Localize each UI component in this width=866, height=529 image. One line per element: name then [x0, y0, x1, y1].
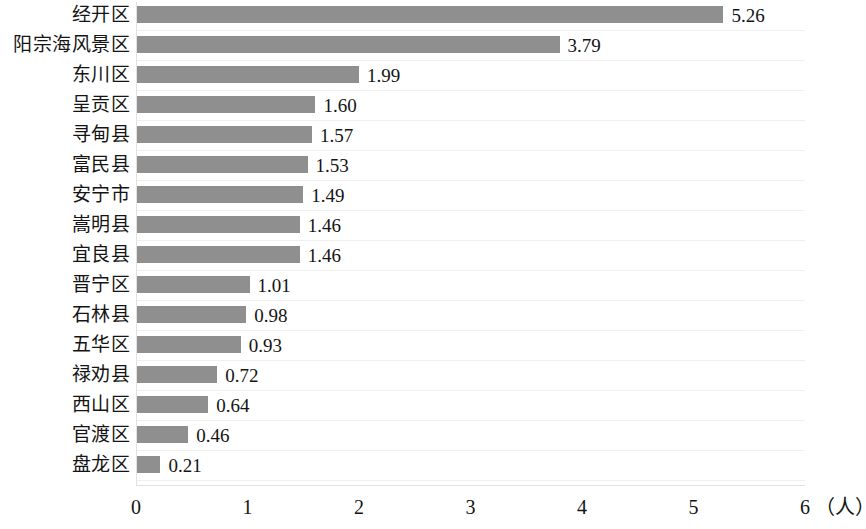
bar: [137, 366, 217, 383]
category-label: 石林县: [0, 300, 130, 330]
bar-value-label: 1.49: [311, 180, 344, 210]
bar: [137, 96, 315, 113]
bar: [137, 276, 250, 293]
bar-value-label: 0.93: [249, 330, 282, 360]
x-axis-tick-label: 1: [243, 493, 253, 521]
category-label: 富民县: [0, 150, 130, 180]
bar-value-label: 1.46: [308, 240, 341, 270]
bar-row: 寻甸县1.57: [0, 120, 846, 150]
x-axis-line: [136, 485, 805, 486]
bar-row: 阳宗海风景区3.79: [0, 30, 846, 60]
bar-track: 0.98: [137, 300, 846, 330]
bar-value-label: 1.01: [258, 270, 291, 300]
bar-row: 石林县0.98: [0, 300, 846, 330]
bar-track: 1.53: [137, 150, 846, 180]
category-label: 安宁市: [0, 180, 130, 210]
bar-row: 盘龙区0.21: [0, 450, 846, 480]
bar-track: 1.49: [137, 180, 846, 210]
bar-value-label: 0.46: [196, 420, 229, 450]
bar-row: 东川区1.99: [0, 60, 846, 90]
category-label: 东川区: [0, 60, 130, 90]
x-axis: 0123456（人）: [0, 487, 846, 529]
category-label: 五华区: [0, 330, 130, 360]
bar-row: 五华区0.93: [0, 330, 846, 360]
category-label: 寻甸县: [0, 120, 130, 150]
category-label: 禄劝县: [0, 360, 130, 390]
bar-track: 3.79: [137, 30, 846, 60]
x-axis-tick-label: 3: [466, 493, 476, 521]
bar-value-label: 0.64: [216, 390, 249, 420]
category-label: 西山区: [0, 390, 130, 420]
bar-value-label: 1.99: [367, 60, 400, 90]
bar-row: 富民县1.53: [0, 150, 846, 180]
bar-row: 晋宁区1.01: [0, 270, 846, 300]
bar: [137, 66, 359, 83]
x-axis-tick-label: 6: [800, 493, 810, 521]
x-axis-unit-label: （人）: [815, 493, 866, 521]
bar-rows: 经开区5.26阳宗海风景区3.79东川区1.99呈贡区1.60寻甸县1.57富民…: [0, 0, 846, 480]
plot-area: 经开区5.26阳宗海风景区3.79东川区1.99呈贡区1.60寻甸县1.57富民…: [0, 0, 846, 487]
bar-track: 0.46: [137, 420, 846, 450]
bar-track: 0.93: [137, 330, 846, 360]
bar-value-label: 0.98: [254, 300, 287, 330]
bar-value-label: 3.79: [568, 30, 601, 60]
bar-track: 0.72: [137, 360, 846, 390]
x-axis-tick-label: 5: [689, 493, 699, 521]
category-label: 盘龙区: [0, 450, 130, 480]
bar: [137, 456, 160, 473]
bar: [137, 186, 303, 203]
category-label: 官渡区: [0, 420, 130, 450]
bar-track: 0.64: [137, 390, 846, 420]
bar: [137, 306, 246, 323]
x-axis-tick-label: 4: [577, 493, 587, 521]
bar: [137, 216, 300, 233]
bar-value-label: 1.53: [316, 150, 349, 180]
bar: [137, 396, 208, 413]
category-label: 晋宁区: [0, 270, 130, 300]
bar-track: 1.57: [137, 120, 846, 150]
bar-row: 宜良县1.46: [0, 240, 846, 270]
gridline: [136, 480, 805, 481]
category-label: 经开区: [0, 0, 130, 30]
bar: [137, 246, 300, 263]
bar: [137, 426, 188, 443]
bar-value-label: 1.60: [323, 90, 356, 120]
bar-row: 禄劝县0.72: [0, 360, 846, 390]
bar: [137, 6, 723, 23]
bar: [137, 36, 560, 53]
bar-row: 安宁市1.49: [0, 180, 846, 210]
bar-track: 1.46: [137, 210, 846, 240]
bar-row: 官渡区0.46: [0, 420, 846, 450]
bar-value-label: 5.26: [731, 0, 764, 30]
category-label: 阳宗海风景区: [0, 30, 130, 60]
bar-track: 1.01: [137, 270, 846, 300]
bar-track: 1.60: [137, 90, 846, 120]
bar-value-label: 1.57: [320, 120, 353, 150]
bar-row: 呈贡区1.60: [0, 90, 846, 120]
bar-track: 5.26: [137, 0, 846, 30]
bar-value-label: 1.46: [308, 210, 341, 240]
x-axis-tick-label: 0: [131, 493, 141, 521]
bar-track: 0.21: [137, 450, 846, 480]
category-label: 宜良县: [0, 240, 130, 270]
bar-row: 西山区0.64: [0, 390, 846, 420]
bar: [137, 336, 241, 353]
bar-value-label: 0.72: [225, 360, 258, 390]
bar-row: 嵩明县1.46: [0, 210, 846, 240]
bar-track: 1.46: [137, 240, 846, 270]
bar: [137, 156, 308, 173]
bar-track: 1.99: [137, 60, 846, 90]
bar-row: 经开区5.26: [0, 0, 846, 30]
x-axis-tick-label: 2: [354, 493, 364, 521]
bar-value-label: 0.21: [168, 450, 201, 480]
category-label: 嵩明县: [0, 210, 130, 240]
bar: [137, 126, 312, 143]
category-label: 呈贡区: [0, 90, 130, 120]
